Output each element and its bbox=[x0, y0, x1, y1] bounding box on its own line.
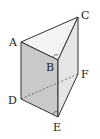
vertex-label-c: C bbox=[81, 9, 89, 22]
vertex-label-d: D bbox=[8, 94, 17, 107]
vertex-label-f: F bbox=[81, 68, 89, 81]
vertex-label-b: B bbox=[46, 61, 54, 74]
vertex-label-a: A bbox=[8, 36, 18, 49]
prism-diagram: A B C D E F bbox=[0, 0, 100, 139]
vertex-label-e: E bbox=[53, 121, 61, 134]
